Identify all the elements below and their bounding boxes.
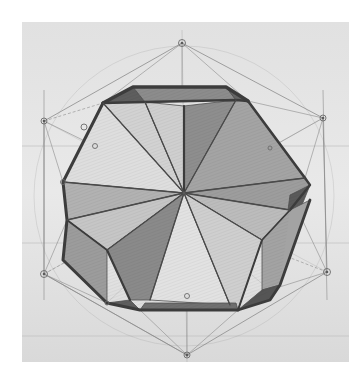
polyhedron-drawing	[0, 0, 364, 374]
